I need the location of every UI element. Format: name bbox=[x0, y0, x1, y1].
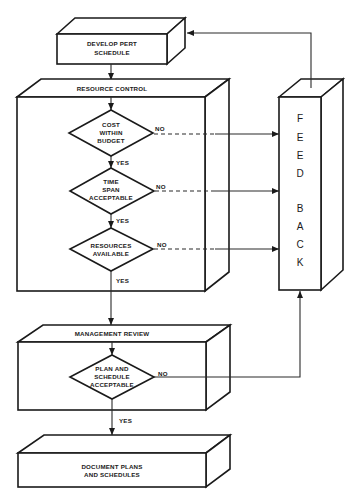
decision-text: ACCEPTABLE bbox=[89, 194, 133, 201]
develop-pert-schedule-box: DEVELOP PERT SCHEDULE bbox=[57, 18, 185, 64]
yes-label: YES bbox=[119, 417, 132, 424]
management-review-title: MANAGEMENT REVIEW bbox=[75, 330, 150, 337]
no-label: NO bbox=[158, 370, 168, 377]
develop-pert-line-2: SCHEDULE bbox=[94, 49, 130, 56]
no-label: NO bbox=[157, 241, 167, 248]
yes-label: YES bbox=[116, 217, 129, 224]
decision-text: BUDGET bbox=[97, 137, 124, 144]
decision-text: SCHEDULE bbox=[94, 373, 130, 380]
flowchart-canvas: DEVELOP PERT SCHEDULE RESOURCE CONTROL F… bbox=[0, 0, 357, 501]
resource-control-title: RESOURCE CONTROL bbox=[77, 85, 148, 92]
document-plans-box: DOCUMENT PLANS AND SCHEDULES bbox=[18, 435, 230, 487]
decision-text: COST bbox=[102, 121, 120, 128]
decision-text: RESOURCES bbox=[91, 242, 132, 249]
decision-text: SPAN bbox=[102, 186, 120, 193]
develop-pert-line-1: DEVELOP PERT bbox=[87, 40, 137, 47]
feedback-letter: E bbox=[297, 150, 304, 161]
decision-text: WITHIN bbox=[99, 129, 123, 136]
feedback-letter: D bbox=[296, 168, 303, 179]
feedback-letter: A bbox=[297, 221, 304, 232]
feedback-letter: E bbox=[297, 132, 304, 143]
decision-text: AVAILABLE bbox=[93, 250, 129, 257]
decision-text: ACCEPTABLE bbox=[90, 381, 134, 388]
feedback-letter: F bbox=[297, 113, 303, 124]
feedback-letter: K bbox=[297, 257, 304, 268]
document-plans-line-1: DOCUMENT PLANS bbox=[81, 463, 142, 470]
yes-label: YES bbox=[116, 159, 129, 166]
decision-text: TIME bbox=[103, 178, 119, 185]
document-plans-line-2: AND SCHEDULES bbox=[84, 471, 140, 478]
feedback-letter: B bbox=[297, 203, 304, 214]
no-label: NO bbox=[155, 125, 165, 132]
decision-text: PLAN AND bbox=[95, 365, 129, 372]
yes-label: YES bbox=[116, 277, 129, 284]
feedback-box: F E E D B A C K bbox=[279, 79, 343, 290]
no-label: NO bbox=[156, 183, 166, 190]
feedback-letter: C bbox=[296, 239, 303, 250]
